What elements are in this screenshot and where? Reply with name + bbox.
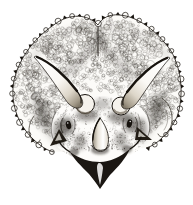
illustration-canvas: Triceratops head, front view - ink illus… xyxy=(0,0,193,205)
triceratops-illustration: Triceratops head, front view - ink illus… xyxy=(0,0,193,205)
